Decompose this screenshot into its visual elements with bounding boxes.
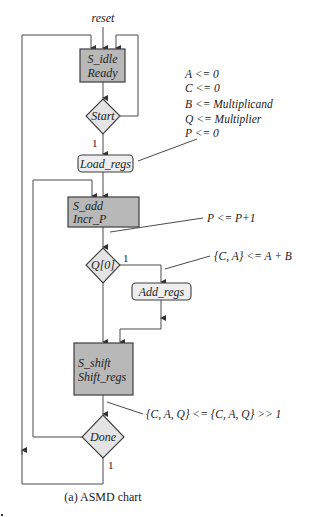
conditional-add-regs: Add_regs: [132, 283, 191, 300]
asmd-chart: reset S_idle Ready Start 1 Load_regs A <…: [0, 0, 309, 517]
annotation-line: B <= Multiplicand: [185, 98, 273, 111]
done-true-label: 1: [108, 459, 114, 471]
add-regs-leader: [165, 256, 210, 269]
conditional-load-regs: Load_regs: [78, 155, 133, 172]
start-true-label: 1: [92, 137, 98, 149]
decision-done: Done: [82, 415, 124, 458]
load-regs-annotation: A <= 0 C <= 0 B <= Multiplicand Q <= Mul…: [184, 68, 273, 139]
annotation-line: Q <= Multiplier: [185, 113, 262, 126]
shift-regs-leader: [107, 402, 143, 414]
state-s-idle: S_idle Ready: [80, 49, 125, 82]
state-s-add: S_add Incr_P: [68, 197, 139, 227]
decision-q0: Q[0]: [86, 248, 120, 283]
annotation-line: A <= 0: [184, 68, 219, 80]
state-s-shift: S_shift Shift_regs: [74, 343, 133, 395]
state-name: S_add: [73, 199, 104, 213]
annotation-line: P <= 0: [184, 127, 219, 139]
decision-start: Start: [86, 99, 120, 134]
add-regs-annotation: {C, A} <= A + B: [214, 250, 292, 263]
conditional-label: Load_regs: [79, 157, 131, 171]
add-regs-to-shift-arrow: [120, 318, 161, 342]
q0-true-arrow: [120, 265, 161, 282]
state-output: Shift_regs: [78, 370, 127, 384]
load-regs-leader: [138, 139, 197, 161]
decision-label: Done: [89, 430, 117, 444]
state-output: Incr_P: [72, 212, 107, 226]
state-name: S_shift: [78, 356, 111, 370]
q0-true-label: 1: [123, 252, 129, 264]
corner-dot: [1, 514, 3, 516]
state-name: S_idle: [88, 52, 119, 66]
state-output: Ready: [87, 66, 119, 80]
shift-regs-annotation: {C, A, Q} <= {C, A, Q} >> 1: [146, 408, 281, 421]
reset-label: reset: [92, 11, 116, 25]
decision-label: Q[0]: [91, 258, 115, 272]
figure-caption: (a) ASMD chart: [64, 490, 142, 504]
decision-label: Start: [91, 109, 115, 123]
annotation-line: C <= 0: [185, 82, 220, 94]
conditional-label: Add_regs: [138, 285, 185, 299]
incr-p-annotation: P <= P+1: [206, 212, 256, 224]
